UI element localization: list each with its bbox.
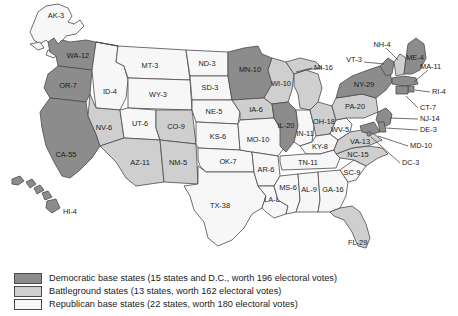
state-label-IA: IA-6 [249, 105, 263, 114]
state-label-AK: AK-3 [48, 11, 64, 20]
state-label-CA: CA-55 [56, 150, 77, 159]
state-label-MA: MA-11 [420, 62, 441, 71]
state-label-FL: FL-29 [348, 238, 367, 247]
state-label-MO: MO-10 [247, 135, 270, 144]
state-KS: KS-6 [196, 122, 240, 150]
legend-item-battleground: Battleground states (13 states, worth 16… [14, 285, 444, 297]
legend-swatch-battleground [14, 286, 42, 297]
state-label-IL: IL-20 [278, 121, 295, 130]
legend-label-republican: Republican base states (22 states, worth… [49, 298, 298, 310]
state-label-TX: TX-38 [210, 201, 230, 210]
state-ND: ND-3 [186, 50, 228, 76]
state-label-IN: IN-11 [296, 129, 314, 138]
state-label-NV: NV-6 [96, 123, 112, 132]
state-label-NC: NC-15 [347, 150, 368, 159]
state-SD: SD-3 [190, 76, 232, 100]
state-label-RI: RI-4 [432, 87, 446, 96]
state-AR: AR-6 [252, 152, 280, 186]
state-HI: HI-4 [12, 176, 77, 216]
state-label-MS: MS-6 [279, 183, 297, 192]
state-AL: AL-9 [296, 172, 320, 212]
state-NE: NE-5 [192, 100, 240, 124]
state-label-TN: TN-11 [298, 158, 318, 167]
state-label-NM: NM-5 [169, 158, 187, 167]
state-label-MD: MD-10 [410, 141, 432, 150]
state-AZ: AZ-11 [100, 138, 164, 186]
state-OR: OR-7 [44, 66, 92, 102]
state-UT: UT-6 [120, 108, 160, 140]
state-label-MN: MN-10 [239, 65, 261, 74]
state-label-WI: WI-10 [271, 79, 291, 88]
state-label-KS: KS-6 [210, 132, 226, 141]
state-WY: WY-3 [128, 78, 192, 110]
state-label-VT: VT-3 [346, 55, 362, 64]
state-label-DC: DC-3 [402, 158, 419, 167]
legend-item-republican: Republican base states (22 states, worth… [14, 298, 444, 310]
state-label-AL: AL-9 [301, 185, 317, 194]
state-label-WY: WY-3 [149, 90, 167, 99]
state-label-DE: DE-3 [420, 125, 437, 134]
state-RI: RI-4 [408, 86, 446, 96]
state-label-VA: VA-13 [350, 137, 370, 146]
legend-swatch-republican [14, 299, 42, 310]
electoral-map: AK-3 HI-4 WA-12 OR-7 CA-55 ID-4 NV-6 MT-… [0, 0, 458, 262]
state-WA: WA-12 [48, 38, 96, 70]
state-label-ID: ID-4 [103, 87, 117, 96]
state-label-GA: GA-16 [322, 185, 343, 194]
state-NM: NM-5 [160, 140, 198, 184]
state-label-MT: MT-3 [142, 61, 159, 70]
state-label-NE: NE-5 [206, 107, 223, 116]
state-label-WV: WV-5 [331, 125, 349, 134]
state-label-CT: CT-7 [420, 103, 436, 112]
state-label-AZ: AZ-11 [130, 158, 150, 167]
legend-item-democratic: Democratic base states (15 states and D.… [14, 272, 444, 284]
state-label-NH: NH-4 [373, 40, 390, 49]
state-FL: FL-29 [330, 206, 370, 248]
state-label-SD: SD-3 [202, 83, 219, 92]
state-label-AR: AR-6 [258, 165, 275, 174]
state-label-SC: SC-9 [344, 168, 361, 177]
state-label-CO: CO-9 [167, 122, 185, 131]
state-label-UT: UT-6 [132, 119, 148, 128]
state-label-OR: OR-7 [59, 81, 77, 90]
map-legend: Democratic base states (15 states and D.… [14, 272, 444, 311]
state-label-WA: WA-12 [67, 51, 89, 60]
state-label-PA: PA-20 [345, 102, 365, 111]
legend-swatch-democratic [14, 273, 42, 284]
legend-label-battleground: Battleground states (13 states, worth 16… [49, 285, 281, 297]
state-MN: MN-10 [228, 46, 272, 100]
state-label-OK: OK-7 [219, 157, 236, 166]
state-CO: CO-9 [156, 110, 196, 144]
state-OK: OK-7 [198, 148, 254, 172]
state-label-ND: ND-3 [198, 59, 215, 68]
state-label-HI: HI-4 [63, 207, 77, 216]
state-label-NJ: NJ-14 [420, 114, 440, 123]
state-label-KY: KY-8 [312, 142, 328, 151]
state-label-ME: ME-4 [406, 53, 424, 62]
legend-label-democratic: Democratic base states (15 states and D.… [49, 272, 337, 284]
state-label-MI: MI-16 [314, 63, 333, 72]
state-label-NY: NY-29 [354, 80, 374, 89]
